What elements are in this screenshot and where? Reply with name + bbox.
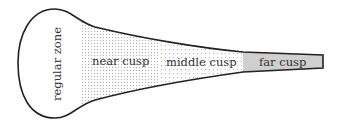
cusp-diagram: regular zone near cusp middle cusp far c… bbox=[0, 0, 338, 126]
middle-cusp-label: middle cusp bbox=[166, 55, 237, 69]
regular-zone-label: regular zone bbox=[50, 27, 64, 101]
near-cusp-label: near cusp bbox=[92, 54, 149, 68]
far-cusp-label: far cusp bbox=[259, 55, 306, 69]
